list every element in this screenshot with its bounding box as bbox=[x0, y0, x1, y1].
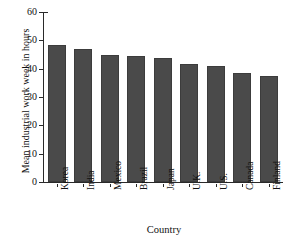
x-axis-tick-label: Japan bbox=[167, 168, 177, 190]
x-axis-tick-label: Canada bbox=[246, 162, 256, 191]
y-axis-tick bbox=[39, 97, 43, 98]
bar-slot bbox=[72, 12, 98, 182]
y-axis-title: Mean industrial work week in hours bbox=[21, 17, 31, 185]
bar-slot bbox=[99, 12, 125, 182]
x-axis-tick bbox=[269, 184, 270, 187]
bar-series bbox=[45, 12, 283, 182]
y-axis-tick bbox=[39, 154, 43, 155]
bar-slot bbox=[258, 12, 284, 182]
y-axis-tick bbox=[39, 125, 43, 126]
x-axis-tick bbox=[189, 184, 190, 187]
x-axis-tick-label: India bbox=[87, 170, 97, 190]
x-axis-tick-label: Brazil bbox=[140, 167, 150, 190]
bar-slot bbox=[178, 12, 204, 182]
y-axis-line bbox=[43, 12, 44, 183]
x-axis-tick-label: Mexico bbox=[114, 161, 124, 190]
x-axis-tick-label: U.K. bbox=[193, 172, 203, 190]
x-axis-tick bbox=[136, 184, 137, 187]
bar-japan[interactable] bbox=[154, 58, 172, 182]
x-axis-tick bbox=[216, 184, 217, 187]
x-axis-tick-label: U.S. bbox=[220, 173, 230, 190]
bar-slot bbox=[231, 12, 257, 182]
bar-chart-figure: 0102030405060 Mean industrial work week … bbox=[0, 0, 287, 239]
bar-korea[interactable] bbox=[48, 45, 66, 182]
y-axis-tick bbox=[39, 12, 43, 13]
x-axis-title: Country bbox=[45, 224, 283, 235]
bar-slot bbox=[125, 12, 151, 182]
x-axis-tick bbox=[163, 184, 164, 187]
x-axis-tick bbox=[110, 184, 111, 187]
y-axis-tick bbox=[39, 40, 43, 41]
x-axis-tick-labels: KoreaIndiaMexicoBrazilJapanU.K.U.S.Canad… bbox=[45, 184, 283, 228]
x-axis-tick bbox=[57, 184, 58, 187]
y-axis-tick bbox=[39, 69, 43, 70]
bar-slot bbox=[205, 12, 231, 182]
y-axis-tick bbox=[39, 182, 43, 183]
bar-slot bbox=[152, 12, 178, 182]
x-axis-tick bbox=[242, 184, 243, 187]
x-axis-tick-label: Finland bbox=[273, 161, 283, 190]
y-axis-tick-label: 60 bbox=[15, 7, 37, 17]
bar-india[interactable] bbox=[74, 49, 92, 182]
bar-brazil[interactable] bbox=[127, 56, 145, 182]
bar-u-k[interactable] bbox=[180, 64, 198, 182]
x-axis-tick bbox=[83, 184, 84, 187]
bar-slot bbox=[46, 12, 72, 182]
bar-u-s[interactable] bbox=[207, 66, 225, 182]
x-axis-tick-label: Korea bbox=[61, 167, 71, 190]
